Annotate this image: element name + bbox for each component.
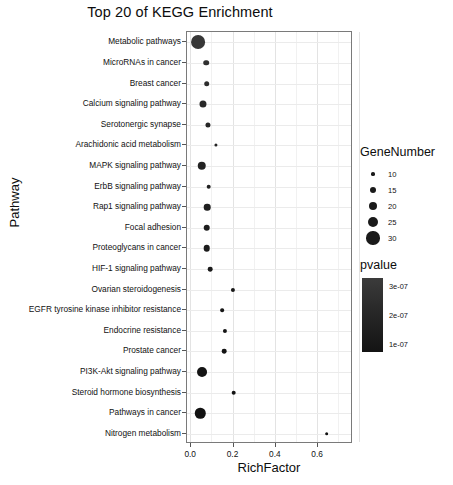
y-axis-tick — [182, 392, 186, 393]
y-axis-tick — [182, 83, 186, 84]
x-axis-tick-label: 0.2 — [227, 449, 239, 459]
pvalue-colorbar-labels: 3e-072e-071e-07 — [383, 278, 429, 352]
y-axis-tick — [182, 186, 186, 187]
data-point — [204, 81, 210, 87]
y-axis-tick-label: Arachidonic acid metabolism — [0, 139, 181, 149]
y-axis-tick-label: HIF-1 signaling pathway — [0, 263, 181, 273]
x-axis-tick — [317, 443, 318, 447]
y-axis-tick-label: Serotonergic synapse — [0, 119, 181, 129]
y-axis-tick — [182, 165, 186, 166]
data-point — [204, 224, 211, 231]
gridline-horizontal — [187, 166, 351, 167]
gridline-horizontal — [187, 372, 351, 373]
genenumber-legend-dot — [362, 217, 384, 228]
gridline-horizontal — [187, 310, 351, 311]
pvalue-legend-label: 2e-07 — [389, 311, 408, 320]
gridline-horizontal — [187, 42, 351, 43]
y-axis-tick-label: Metabolic pathways — [0, 36, 181, 46]
genenumber-legend-item: 15 — [362, 182, 435, 198]
genenumber-legend-label: 15 — [388, 186, 396, 195]
y-axis-tick — [182, 206, 186, 207]
y-axis-tick-label: ErbB signaling pathway — [0, 181, 181, 191]
gridline-vertical — [254, 32, 255, 442]
plot-panel — [186, 31, 352, 443]
x-axis-tick-label: 0.6 — [311, 449, 323, 459]
gridline-horizontal — [187, 331, 351, 332]
gridline-vertical — [296, 32, 297, 442]
kegg-enrichment-dotplot: Top 20 of KEGG Enrichment Pathway Metabo… — [0, 0, 453, 485]
gridline-horizontal — [187, 413, 351, 414]
data-point — [198, 162, 207, 171]
y-axis-tick — [182, 412, 186, 413]
gridline-vertical — [190, 32, 191, 442]
data-point — [325, 432, 329, 436]
genenumber-legend-label: 25 — [388, 218, 396, 227]
gridline-vertical — [233, 32, 234, 442]
data-point — [200, 101, 207, 108]
gridline-vertical — [211, 32, 212, 442]
y-axis-tick-label: Endocrine resistance — [0, 325, 181, 335]
gridline-horizontal — [187, 393, 351, 394]
y-axis-tick-label: Calcium signaling pathway — [0, 98, 181, 108]
genenumber-legend-item: 10 — [362, 166, 435, 182]
y-axis-tick — [182, 247, 186, 248]
y-axis-tick-label: Focal adhesion — [0, 222, 181, 232]
pvalue-color-legend: pvalue 3e-072e-071e-07 — [362, 258, 429, 352]
y-axis-tick — [182, 330, 186, 331]
data-point — [204, 204, 211, 211]
y-axis-tick-label: Rap1 signaling pathway — [0, 201, 181, 211]
data-point — [223, 329, 227, 333]
x-axis-title: RichFactor — [186, 460, 352, 475]
gridline-vertical — [275, 32, 276, 442]
y-axis-tick — [182, 41, 186, 42]
y-axis-tick-label: EGFR tyrosine kinase inhibitor resistanc… — [0, 304, 181, 314]
y-axis-tick-label: Nitrogen metabolism — [0, 428, 181, 438]
genenumber-legend-item: 25 — [362, 214, 435, 230]
y-axis-tick-label: MicroRNAs in cancer — [0, 57, 181, 67]
pvalue-legend-label: 3e-07 — [389, 282, 408, 291]
pvalue-colorbar — [362, 278, 383, 352]
data-point — [197, 367, 207, 377]
pvalue-legend-title: pvalue — [360, 258, 429, 272]
genenumber-size-legend: GeneNumber 1015202530 — [362, 145, 435, 246]
data-point — [191, 35, 205, 49]
genenumber-legend-title: GeneNumber — [360, 145, 435, 159]
data-point — [231, 390, 236, 395]
y-axis-tick — [182, 309, 186, 310]
y-axis-tick — [182, 103, 186, 104]
data-point — [206, 184, 211, 189]
y-axis-tick — [182, 350, 186, 351]
y-axis-tick-label: Breast cancer — [0, 78, 181, 88]
y-axis-tick — [182, 144, 186, 145]
y-axis-tick — [182, 268, 186, 269]
y-axis-tick-label: PI3K-Akt signaling pathway — [0, 366, 181, 376]
y-axis-tick-label: Pathways in cancer — [0, 407, 181, 417]
genenumber-legend-item: 30 — [362, 230, 435, 246]
genenumber-legend-dot — [362, 172, 384, 176]
gridline-horizontal — [187, 187, 351, 188]
genenumber-legend-label: 10 — [388, 170, 396, 179]
gridline-vertical — [317, 32, 318, 442]
x-axis-tick-label: 0.0 — [184, 449, 196, 459]
gridline-horizontal — [187, 104, 351, 105]
y-axis-tick — [182, 289, 186, 290]
y-axis-tick-label: Proteoglycans in cancer — [0, 242, 181, 252]
y-axis-tick — [182, 227, 186, 228]
y-axis-tick-label: Ovarian steroidogenesis — [0, 284, 181, 294]
x-axis-tick — [275, 443, 276, 447]
x-axis-tick-label: 0.4 — [269, 449, 281, 459]
gridline-horizontal — [187, 228, 351, 229]
data-point — [220, 308, 224, 312]
genenumber-legend-label: 30 — [388, 234, 396, 243]
data-point — [231, 287, 235, 291]
page-title: Top 20 of KEGG Enrichment — [0, 4, 360, 20]
gridline-horizontal — [187, 145, 351, 146]
pvalue-legend-label: 1e-07 — [389, 340, 408, 349]
data-point — [214, 144, 217, 147]
y-axis-tick — [182, 433, 186, 434]
data-point — [208, 267, 213, 272]
data-point — [222, 349, 227, 354]
y-axis-tick — [182, 62, 186, 63]
gridline-horizontal — [187, 207, 351, 208]
genenumber-legend-label: 20 — [388, 202, 396, 211]
